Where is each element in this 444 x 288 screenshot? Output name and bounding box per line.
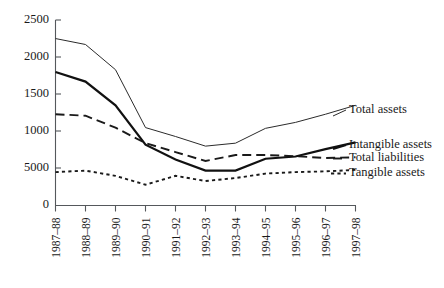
x-axis-label-4: 1991–92 xyxy=(170,217,182,258)
legend-label-tangible-assets: Tangible assets xyxy=(349,165,425,179)
x-axis-label-8: 1995–96 xyxy=(290,217,302,258)
legend-label-intangible-assets: Intangible assets xyxy=(349,137,432,151)
y-tick-label-500: 5000 xyxy=(24,160,49,174)
chart-container: 2500 2000 1500 1000 5000 0 T xyxy=(0,0,444,288)
x-axis-label-7: 1994–95 xyxy=(260,217,272,258)
x-axis-label-6: 1993–94 xyxy=(230,217,242,258)
legend-label-total-liabilities: Total liabilities xyxy=(349,150,424,164)
series-group xyxy=(56,39,356,185)
axes-lines xyxy=(56,20,357,206)
x-axis-ticks xyxy=(56,206,356,212)
legend-label-total-assets: Total assets xyxy=(349,102,407,116)
y-tick-label-0: 0 xyxy=(43,197,49,211)
legend: Total assets Intangible assets Total lia… xyxy=(331,102,432,180)
y-axis-labels: 2500 2000 1500 1000 5000 0 xyxy=(24,12,49,211)
series-line-total-liabilities xyxy=(56,114,356,161)
y-tick-label-1500: 1500 xyxy=(24,86,49,100)
y-tick-label-1000: 1000 xyxy=(24,123,49,137)
line-chart: 2500 2000 1500 1000 5000 0 T xyxy=(0,0,444,288)
legend-swatch-total-assets xyxy=(333,110,346,116)
y-tick-label-2000: 2000 xyxy=(24,49,49,63)
x-axis-labels: 1987–881988–891989–901990–911991–921992–… xyxy=(50,217,362,258)
x-axis-label-9: 1996–97 xyxy=(320,217,332,258)
x-axis-label-5: 1992–93 xyxy=(200,217,212,258)
series-line-tangible-assets xyxy=(56,170,356,185)
axis-path xyxy=(56,20,357,206)
x-axis-label-1: 1988–89 xyxy=(80,217,92,258)
x-axis-label-3: 1990–91 xyxy=(140,217,152,258)
y-tick-label-2500: 2500 xyxy=(24,12,49,26)
x-axis-label-2: 1989–90 xyxy=(110,217,122,258)
x-axis-label-10: 1997–98 xyxy=(350,217,362,258)
x-axis-label-0: 1987–88 xyxy=(50,217,62,258)
